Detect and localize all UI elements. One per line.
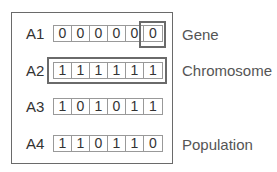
gene-cell: 0: [72, 99, 90, 114]
row-label: A3: [26, 98, 50, 116]
gene-cell: 0: [90, 136, 108, 151]
gene-cell: 1: [144, 99, 162, 114]
bit-string: 1 0 1 0 1 1: [53, 98, 163, 115]
gene-cell: 1: [126, 136, 144, 151]
gene-highlight-box: [139, 21, 166, 48]
bit-string: 1 1 0 1 1 0: [53, 135, 163, 152]
gene-cell: 0: [108, 99, 126, 114]
row-label: A1: [26, 25, 50, 43]
gene-cell: 1: [90, 99, 108, 114]
gene-cell: 0: [54, 26, 72, 41]
gene-cell: 1: [54, 136, 72, 151]
gene-cell: 1: [72, 136, 90, 151]
chromosome-annotation: Chromosome: [182, 62, 272, 80]
gene-cell: 0: [144, 136, 162, 151]
gene-cell: 1: [108, 136, 126, 151]
gene-cell: 0: [72, 26, 90, 41]
gene-cell: 1: [126, 99, 144, 114]
population-annotation: Population: [182, 136, 253, 154]
gene-cell: 0: [108, 26, 126, 41]
gene-annotation: Gene: [182, 26, 219, 44]
row-label: A4: [26, 135, 50, 153]
chromosome-highlight-box: [47, 57, 167, 84]
gene-cell: 1: [54, 99, 72, 114]
gene-cell: 0: [90, 26, 108, 41]
